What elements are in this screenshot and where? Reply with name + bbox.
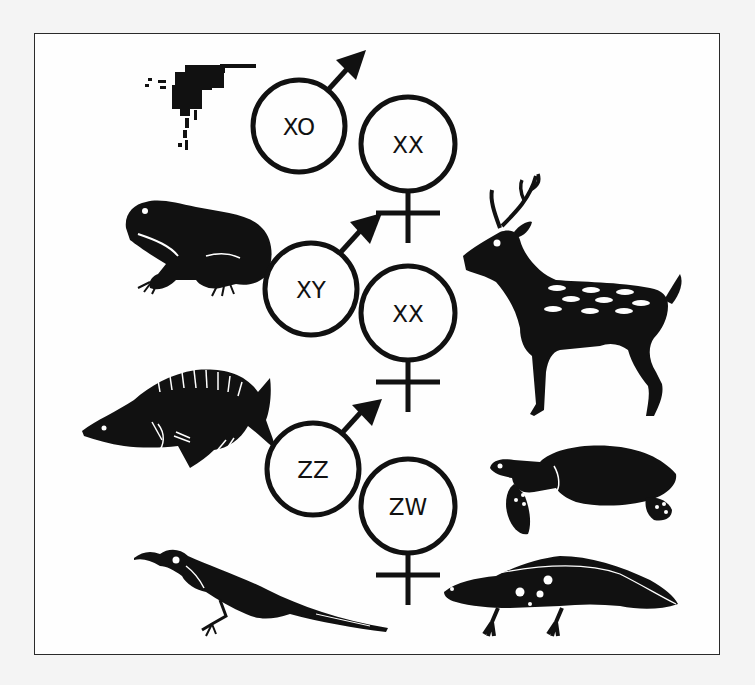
- deer-icon: [463, 174, 682, 416]
- male-label-xo: XO: [283, 114, 315, 140]
- male-symbol-zz: ZZ: [267, 399, 382, 515]
- female-label-xx-2: XX: [392, 301, 424, 327]
- frog-icon: [126, 201, 272, 296]
- female-label-xx-1: XX: [392, 132, 424, 158]
- male-label-zz: ZZ: [297, 457, 329, 483]
- female-label-zw: ZW: [389, 494, 428, 520]
- male-symbol-xo: XO: [253, 50, 366, 172]
- fish-icon: [82, 370, 274, 468]
- male-label-xy: XY: [296, 277, 327, 303]
- salamander-icon: [444, 556, 678, 636]
- insect-icon: [145, 64, 256, 150]
- bird-icon: [134, 550, 388, 636]
- sex-chromosome-diagram: XO XX XY XX: [0, 0, 755, 685]
- turtle-icon: [490, 446, 676, 535]
- male-symbol-xy: XY: [265, 213, 382, 335]
- female-symbol-zw: ZW: [361, 459, 455, 605]
- female-symbol-xx-2: XX: [361, 266, 455, 412]
